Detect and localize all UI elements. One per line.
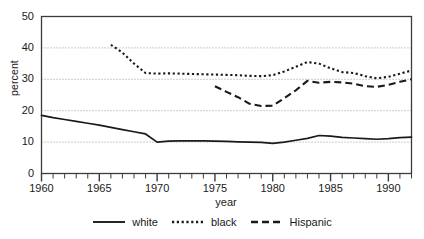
y-tick-label: 30 [8, 72, 34, 84]
x-tick-label: 1980 [251, 182, 295, 194]
legend-label: black [211, 216, 237, 228]
gridlines [42, 48, 412, 142]
series-line-white [42, 115, 412, 143]
x-axis-ticks [42, 174, 412, 182]
y-tick-label: 0 [8, 167, 34, 179]
legend-label: white [132, 216, 158, 228]
legend-label: Hispanic [290, 216, 332, 228]
legend-swatch-solid-icon [92, 217, 126, 227]
x-tick-label: 1965 [77, 182, 121, 194]
y-tick-label: 10 [8, 135, 34, 147]
plot-frame [42, 17, 412, 174]
x-axis-label: year [196, 196, 256, 208]
legend-item-hispanic: Hispanic [250, 216, 332, 228]
y-tick-label: 50 [8, 10, 34, 22]
y-tick-label: 40 [8, 41, 34, 53]
x-tick-label: 1960 [20, 182, 64, 194]
x-tick-label: 1990 [366, 182, 410, 194]
series-lines [42, 45, 412, 144]
legend-item-black: black [171, 216, 237, 228]
series-line-black [111, 45, 412, 79]
legend-swatch-dashed-icon [250, 217, 284, 227]
x-tick-label: 1970 [135, 182, 179, 194]
chart-figure: percent year 01020304050 196019651970197… [0, 0, 424, 239]
series-line-hispanic [215, 79, 412, 106]
x-tick-label: 1985 [309, 182, 353, 194]
chart-legend: whiteblackHispanic [0, 216, 424, 228]
y-tick-label: 20 [8, 104, 34, 116]
legend-swatch-dotted-icon [171, 217, 205, 227]
legend-item-white: white [92, 216, 158, 228]
x-tick-label: 1975 [193, 182, 237, 194]
